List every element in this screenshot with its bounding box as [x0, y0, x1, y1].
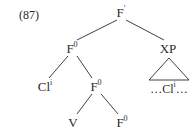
- leaf-ellipsis-prefix: …: [150, 82, 162, 96]
- edge-f0mid-to-v: [77, 94, 92, 114]
- edge-f0upper-to-f0mid: [77, 56, 92, 78]
- tree-branch-lines: [0, 0, 196, 137]
- node-f-bar: F′: [117, 4, 126, 20]
- syntax-tree-figure: (87) F′ F0 XP Cli F0 V F0 …Cli…: [0, 0, 196, 137]
- xp-triangle: [149, 58, 189, 80]
- edge-f0mid-to-f0lower: [101, 94, 118, 114]
- edge-root-to-f0upper: [77, 20, 117, 40]
- node-f-bar-superscript: ′: [124, 4, 126, 13]
- node-f0-lower-superscript: 0: [124, 114, 128, 123]
- edge-root-to-xp: [126, 20, 164, 40]
- xp-triangle-leaf-text: …Cli…: [150, 80, 188, 96]
- node-clitic-specifier: Cli: [38, 78, 53, 94]
- node-f0-middle-superscript: 0: [98, 78, 102, 87]
- node-f0-upper: F0: [66, 40, 77, 56]
- node-clitic-specifier-superscript: i: [50, 78, 52, 87]
- edge-f0upper-to-cl: [49, 56, 68, 78]
- node-clitic-specifier-label: Cl: [38, 79, 50, 94]
- leaf-ellipsis-suffix: …: [176, 82, 188, 96]
- leaf-clitic-label: Cl: [162, 82, 173, 96]
- node-xp: XP: [160, 40, 177, 56]
- node-f0-middle: F0: [90, 78, 101, 94]
- node-f0-lower: F0: [116, 114, 127, 130]
- node-v-label: V: [68, 115, 77, 130]
- node-f0-upper-superscript: 0: [74, 40, 78, 49]
- node-v: V: [68, 114, 77, 130]
- node-xp-label: XP: [160, 41, 177, 56]
